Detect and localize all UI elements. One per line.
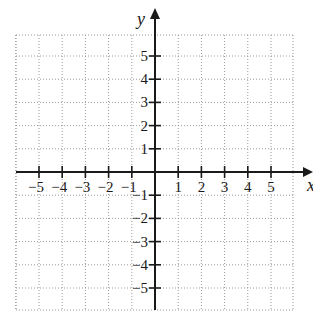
- coordinate-plane: −5−4−3−2−112345 −5−4−3−2−112345 y x: [0, 0, 313, 312]
- x-tick-label: −2: [98, 179, 114, 195]
- y-tick-label: 1: [141, 141, 149, 157]
- y-tick-label: −4: [132, 257, 148, 273]
- x-tick-label: −4: [51, 179, 67, 195]
- y-tick-label: 2: [141, 118, 149, 134]
- y-tick-label: 4: [141, 71, 149, 87]
- x-tick-labels: −5−4−3−2−112345: [28, 179, 275, 195]
- y-axis-arrow-icon: [150, 8, 160, 19]
- y-tick-label: 5: [141, 48, 149, 64]
- x-tick-label: 2: [198, 179, 206, 195]
- y-tick-label: 3: [141, 94, 149, 110]
- y-tick-label: −5: [132, 280, 148, 296]
- x-axis-label: x: [306, 175, 313, 195]
- y-axis-label: y: [135, 9, 145, 29]
- x-tick-label: −3: [74, 179, 90, 195]
- x-tick-label: 3: [221, 179, 229, 195]
- y-tick-label: −1: [132, 187, 148, 203]
- x-tick-label: 5: [267, 179, 275, 195]
- y-tick-label: −2: [132, 210, 148, 226]
- x-tick-label: 4: [244, 179, 252, 195]
- x-tick-label: 1: [174, 179, 182, 195]
- y-tick-label: −3: [132, 234, 148, 250]
- x-tick-label: −5: [28, 179, 44, 195]
